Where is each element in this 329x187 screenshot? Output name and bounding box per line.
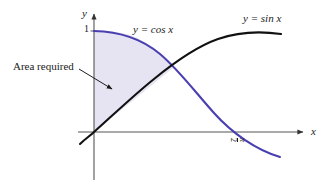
area-required-label: Area required (13, 61, 74, 72)
fraction-numerator: π (238, 138, 246, 142)
fraction-pi-over-2: π 2 (228, 138, 246, 142)
x-tick-label-pi-over-2: π 2 (228, 138, 246, 142)
y-axis-label: y (82, 8, 87, 19)
fraction-denominator: 2 (228, 138, 237, 142)
shaded-region-body (94, 31, 174, 132)
curve-label-cosine: y = cos x (133, 24, 173, 35)
curve-label-sine: y = sin x (243, 13, 281, 24)
figure-area-between-curves: y x 1 y = cos x y = sin x Area required … (0, 0, 329, 187)
y-tick-label-one: 1 (84, 24, 89, 34)
x-axis-label: x (311, 126, 316, 137)
